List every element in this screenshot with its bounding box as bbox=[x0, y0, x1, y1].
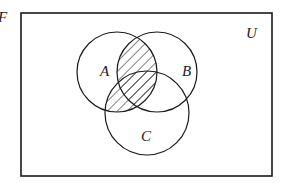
set-c-label: C bbox=[141, 128, 152, 144]
venn-diagram: F U A B C bbox=[0, 0, 286, 183]
set-b-label: B bbox=[182, 63, 191, 79]
universe-label: U bbox=[246, 25, 258, 41]
figure-label: F bbox=[0, 9, 8, 25]
set-a-label: A bbox=[99, 63, 110, 79]
